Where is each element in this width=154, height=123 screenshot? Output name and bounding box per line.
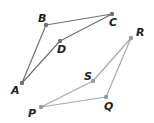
label-d: D (57, 43, 66, 56)
point-a (20, 81, 24, 85)
label-a: A (10, 84, 20, 97)
point-p (39, 105, 43, 109)
label-q: Q (104, 100, 113, 113)
geometry-figure: ABCD PQRS (0, 0, 154, 123)
point-r (129, 36, 133, 40)
quadrilateral-pqrs: PQRS (28, 26, 144, 120)
label-p: P (28, 107, 36, 120)
label-c: C (109, 16, 117, 29)
point-q (104, 95, 108, 99)
label-s: S (84, 70, 92, 83)
quadrilateral-abcd-outline (22, 14, 112, 83)
label-b: B (38, 12, 46, 25)
label-r: R (136, 26, 144, 39)
quadrilateral-abcd: ABCD (10, 12, 117, 97)
